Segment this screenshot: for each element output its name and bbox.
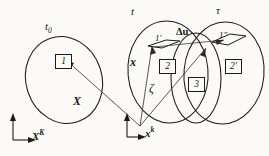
label-intersection-zeta: ζ [149, 82, 154, 94]
label-current-configuration-tau: τ [216, 5, 220, 16]
label-vector-small-x: x [130, 56, 136, 68]
element-box-2-prime: 2' [225, 59, 242, 74]
arrowhead-material-vertical [10, 113, 16, 121]
material-axes [13, 116, 33, 140]
label-parallelogram-1-prime: 1' [155, 33, 161, 43]
label-reference-configuration: t0 [45, 21, 52, 32]
label-vector-big-X: X [73, 95, 81, 107]
arrowhead-spatial-vertical [124, 113, 130, 121]
label-material-axis: XK [32, 131, 44, 142]
configuration-diagram: t0 t τ ζ Δu X x XK xk 1 2 3 2' 1' 1" [0, 0, 269, 156]
element-box-3: 3 [188, 77, 205, 92]
label-delta-u: Δu [176, 27, 188, 38]
label-current-configuration-t: t [131, 6, 134, 17]
vector-big-X-line [66, 60, 140, 126]
label-spatial-axis: xk [145, 128, 154, 139]
ellipse-reference-t0 [14, 26, 113, 133]
element-box-2: 2 [159, 59, 176, 74]
label-parallelogram-1-double-prime: 1" [219, 30, 227, 40]
parallelogram-1-prime [148, 40, 180, 48]
element-box-1: 1 [55, 54, 72, 69]
